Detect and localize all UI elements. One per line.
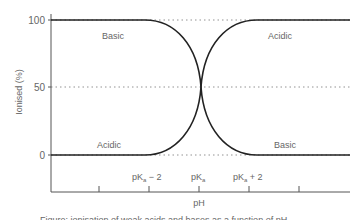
annotation-top-right: Acidic (268, 31, 293, 41)
annotation-bottom-right: Basic (274, 140, 297, 150)
x-label-pka-plus-2: pKa + 2 (233, 172, 263, 183)
annotation-bottom-left: Acidic (97, 140, 122, 150)
ionisation-chart: 100 50 0 Ionised (%) Basic Acidic Acidic… (0, 0, 362, 220)
x-label-pka-minus-2: pKa − 2 (132, 172, 162, 183)
caption-partial: Figure: ionisation of weak acids and bas… (40, 215, 287, 220)
y-axis-title: Ionised (%) (14, 69, 24, 115)
annotation-top-left: Basic (102, 31, 125, 41)
x-axis-title: pH (193, 198, 205, 208)
y-label-50: 50 (34, 82, 46, 93)
y-label-100: 100 (28, 15, 45, 26)
acid-curve (51, 20, 350, 155)
x-label-pka: pKa (191, 172, 206, 183)
y-label-0: 0 (39, 150, 45, 161)
